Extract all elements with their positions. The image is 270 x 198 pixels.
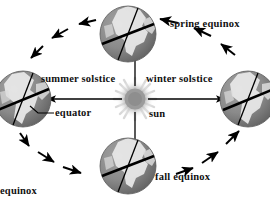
label-winter-solstice: winter solstice [146, 74, 213, 85]
orbit-arrow-12 [226, 131, 239, 144]
diagram-canvas [0, 0, 270, 198]
label-equator: equator [55, 108, 91, 119]
orbit-arrow-1 [221, 44, 235, 55]
orbit-arrow-6 [31, 46, 43, 58]
orbit-arrow-4 [79, 20, 96, 24]
label-cutoff-equinox: equinox [0, 186, 37, 198]
orbit-arrow-9 [63, 167, 81, 173]
orbit-arrow-11 [202, 152, 218, 163]
earth-globe-winter [220, 71, 270, 127]
seasons-orbit-diagram: spring equinox summer solstice winter so… [0, 0, 270, 198]
label-sun: sun [149, 109, 165, 120]
earth-globe-spring [100, 6, 158, 62]
orbit-arrow-7 [20, 133, 29, 146]
orbit-arrow-8 [38, 152, 54, 162]
label-summer-solstice: summer solstice [41, 74, 115, 85]
label-spring-equinox: spring equinox [170, 19, 240, 30]
label-fall-equinox: fall equinox [155, 172, 210, 183]
orbit-arrow-5 [52, 29, 68, 38]
earth-globe-fall [100, 138, 158, 194]
